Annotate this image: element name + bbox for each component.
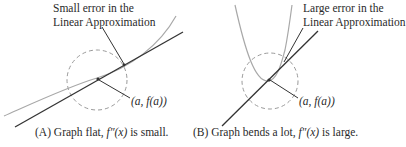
point-label-a: (a, f(a)) bbox=[131, 95, 167, 108]
caption-b-prefix: (B) Graph bends a lot, bbox=[193, 126, 298, 138]
tangent-point-a bbox=[96, 77, 99, 80]
intersection-point-a bbox=[123, 64, 126, 67]
caption-a: (A) Graph flat, f″(x) is small. bbox=[35, 126, 169, 138]
point-label-b: (a, f(a)) bbox=[299, 95, 335, 108]
annotation-a-line2: Linear Approximation bbox=[53, 16, 156, 29]
caption-a-prefix: (A) Graph flat, bbox=[35, 126, 107, 138]
annotation-b-line2: Linear Approximation bbox=[303, 16, 406, 29]
caption-a-math: f″(x) bbox=[107, 126, 128, 138]
tangent-point-b bbox=[267, 78, 270, 81]
annotation-b-line1: Large error in the bbox=[303, 2, 384, 15]
error-pointer-a bbox=[102, 27, 124, 64]
panel-a-graph bbox=[4, 16, 183, 127]
point-leader-b bbox=[270, 80, 298, 98]
tangent-line-b bbox=[222, 31, 318, 126]
caption-b: (B) Graph bends a lot, f″(x) is large. bbox=[193, 126, 358, 138]
caption-b-suffix: is large. bbox=[319, 126, 358, 138]
annotation-a-line1: Small error in the bbox=[53, 2, 134, 15]
caption-a-suffix: is small. bbox=[127, 126, 168, 138]
function-curve-b bbox=[235, 5, 292, 81]
caption-b-math: f″(x) bbox=[298, 126, 319, 138]
error-pointer-b bbox=[284, 28, 303, 62]
